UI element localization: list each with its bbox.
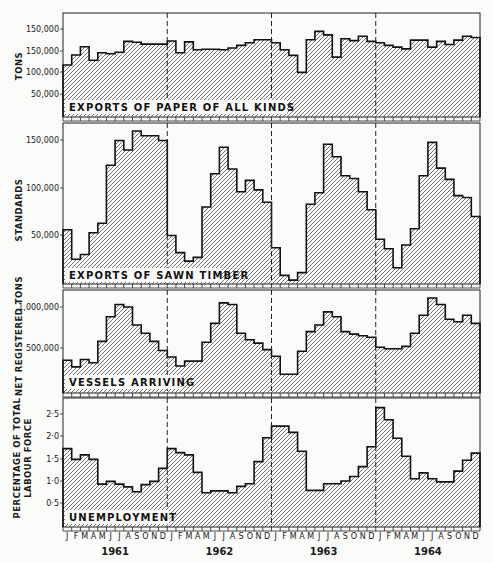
month-label: A — [230, 532, 236, 541]
month-label: A — [195, 532, 201, 541]
timber-y-tick-label: 150,000 — [26, 136, 59, 145]
month-label: D — [368, 532, 374, 541]
month-label: O — [142, 532, 148, 541]
year-labels: 1961196219631964 — [101, 546, 442, 557]
month-label: D — [264, 532, 270, 541]
month-label: S — [239, 532, 244, 541]
paper-ylabel: TONS — [14, 52, 24, 80]
unemployment-y-tick-label: 2·5 — [46, 410, 59, 419]
month-label: O — [247, 532, 253, 541]
month-label: A — [334, 532, 340, 541]
month-label: M — [186, 532, 193, 541]
month-label: S — [343, 532, 348, 541]
month-label: A — [125, 532, 131, 541]
year-label: 1964 — [414, 546, 442, 557]
month-label: D — [160, 532, 166, 541]
month-label: F — [74, 532, 79, 541]
month-label: O — [455, 532, 461, 541]
month-label: A — [91, 532, 97, 541]
paper-y-tick-label: 50,000 — [31, 90, 59, 99]
month-label: N — [360, 532, 366, 541]
month-label: S — [134, 532, 139, 541]
paper-y-tick-label: 100,000 — [26, 68, 59, 77]
paper-panel-title: EXPORTS OF PAPER OF ALL KINDS — [69, 102, 295, 113]
timber-ylabel: STANDARDS — [14, 179, 24, 242]
month-label: M — [394, 532, 401, 541]
paper-y-tick-label: 150,000 — [26, 25, 59, 34]
month-label: M — [290, 532, 297, 541]
unemployment-y-tick-label: 1·0 — [46, 477, 59, 486]
month-label: F — [386, 532, 391, 541]
month-label: J — [378, 532, 381, 541]
month-label: F — [178, 532, 183, 541]
month-label: J — [222, 532, 225, 541]
month-label: J — [213, 532, 216, 541]
month-label: A — [403, 532, 409, 541]
vessels-y-tick-label: 500,000 — [26, 344, 59, 353]
unemployment-ylabel-line2: LABOUR FORCE — [23, 418, 33, 498]
timber-y-tick-label: 50,000 — [31, 231, 59, 240]
month-label: J — [274, 532, 277, 541]
month-label: M — [307, 532, 314, 541]
month-label: A — [299, 532, 305, 541]
vessels-panel-title: VESSELS ARRIVING — [69, 377, 196, 388]
month-label: M — [411, 532, 418, 541]
timber-panel-title: EXPORTS OF SAWN TIMBER — [69, 270, 249, 281]
month-label: F — [282, 532, 287, 541]
month-label: A — [438, 532, 444, 541]
unemployment-y-tick-label: 2·0 — [46, 432, 59, 441]
paper-y-tick-label: 150,000 — [26, 47, 59, 56]
month-label: S — [447, 532, 452, 541]
chart-figure: 150,000150,000100,00050,000150,000100,00… — [0, 0, 494, 563]
month-label: J — [65, 532, 68, 541]
month-label: J — [109, 532, 112, 541]
month-label: J — [430, 532, 433, 541]
month-label: M — [203, 532, 210, 541]
month-label: N — [256, 532, 262, 541]
month-label: M — [81, 532, 88, 541]
month-label: N — [464, 532, 470, 541]
unemployment-y-tick-label: 1·5 — [46, 455, 59, 464]
month-label: J — [169, 532, 172, 541]
month-labels: JFMAMJJASONDJFMAMJJASONDJFMAMJJASONDJFMA… — [65, 532, 479, 541]
month-label: J — [117, 532, 120, 541]
month-label: J — [421, 532, 424, 541]
timber-y-tick-label: 100,000 — [26, 184, 59, 193]
year-label: 1962 — [205, 546, 233, 557]
unemployment-ylabel-line1: PERCENTAGE OF TOTAL — [12, 397, 22, 518]
month-label: D — [473, 532, 479, 541]
vessels-y-tick-label: 1,000,000 — [18, 303, 59, 312]
year-label: 1963 — [310, 546, 338, 557]
month-label: O — [351, 532, 357, 541]
month-label: N — [151, 532, 157, 541]
year-label: 1961 — [101, 546, 129, 557]
unemployment-y-tick-label: 0·5 — [46, 499, 59, 508]
month-label: J — [326, 532, 329, 541]
month-label: M — [99, 532, 106, 541]
month-label: J — [317, 532, 320, 541]
unemployment-panel-title: UNEMPLOYMENT — [69, 512, 177, 523]
vessels-ylabel: NET REGISTERED TONS — [14, 276, 24, 396]
